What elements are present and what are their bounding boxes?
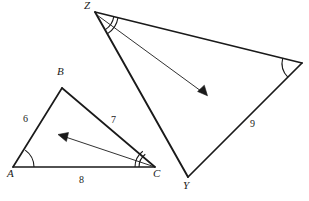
vertex-label-z: Z [84,0,90,11]
arrow-from-z [97,15,208,96]
geometry-diagram: A B C Z Y 6 7 8 9 [0,0,309,201]
arrow-from-c [58,133,155,168]
side-label-ac: 8 [79,175,84,185]
angle-arc-c [135,151,145,167]
vertex-label-b: B [57,66,64,77]
angle-arc-z [105,17,118,34]
triangle-abc [13,88,155,167]
vertex-label-c: C [153,168,160,179]
segment-bc [62,88,155,167]
vertex-label-a: A [7,168,14,179]
segment-xy [188,63,302,177]
side-label-xy: 9 [250,119,255,129]
side-label-ab: 6 [23,114,28,124]
segment-ab [13,88,62,167]
segment-zx [95,12,302,63]
angle-arc-a [25,150,34,167]
angle-arc-x [282,58,288,77]
side-label-bc: 7 [111,115,116,125]
vertex-label-y: Y [183,180,189,191]
